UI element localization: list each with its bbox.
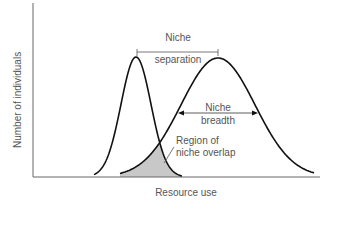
overlap-label-2: niche overlap	[176, 147, 235, 158]
niche-breadth-label-2: breadth	[201, 115, 235, 126]
overlap-leader-line	[164, 147, 174, 163]
species-a-curve	[94, 57, 182, 176]
x-axis-label: Resource use	[155, 187, 217, 198]
overlap-label-1: Region of	[176, 135, 219, 146]
niche-breadth-label-1: Niche	[205, 102, 231, 113]
y-axis-label: Number of individuals	[12, 52, 23, 148]
niche-separation-label-1: Niche	[165, 32, 191, 43]
niche-separation-label-2: separation	[155, 54, 202, 65]
